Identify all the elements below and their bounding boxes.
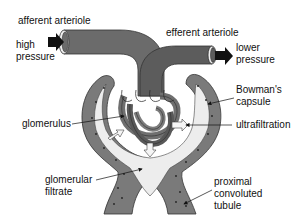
label-ultrafiltration: ultrafiltration	[236, 119, 290, 131]
label-lower-pressure-2: pressure	[236, 54, 275, 66]
outflow-arrow-icon	[215, 47, 233, 65]
label-high-pressure-2: pressure	[16, 51, 55, 63]
label-high-pressure-1: high	[16, 39, 35, 51]
label-proximal-tubule-3: tubule	[214, 200, 241, 212]
label-bowmans-capsule-2: capsule	[236, 96, 270, 108]
glomerulus-diagram: afferent arteriole high pressure efferen…	[0, 0, 302, 219]
label-proximal-tubule-1: proximal	[214, 176, 252, 188]
label-bowmans-capsule-1: Bowman's	[236, 84, 282, 96]
label-glomerulus: glomerulus	[22, 118, 71, 130]
label-lower-pressure-1: lower	[236, 42, 260, 54]
label-afferent-arteriole: afferent arteriole	[18, 15, 91, 27]
label-efferent-arteriole: efferent arteriole	[166, 27, 239, 39]
label-proximal-tubule-2: convoluted	[214, 188, 262, 200]
glomerulus-capillaries	[122, 90, 177, 144]
label-glomerular-filtrate-1: glomerular	[45, 174, 92, 186]
label-glomerular-filtrate-2: filtrate	[45, 186, 72, 198]
